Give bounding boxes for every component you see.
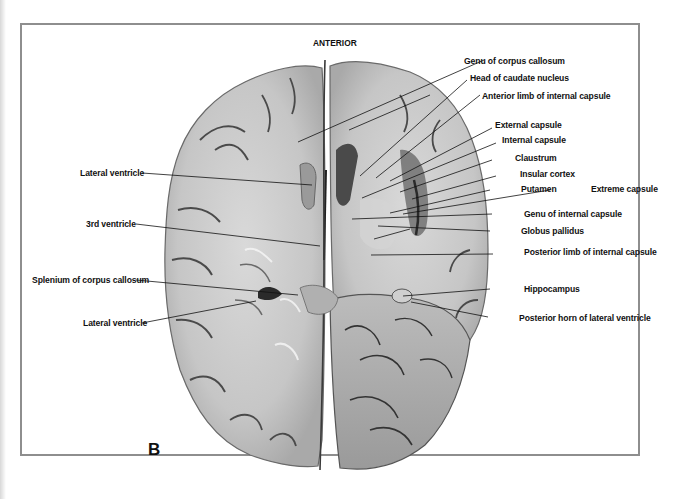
label-splenium-corpus-callosum: Splenium of corpus callosum (32, 275, 149, 285)
label-extreme-capsule: Extreme capsule (591, 184, 658, 194)
label-insular-cortex: Insular cortex (520, 169, 575, 179)
label-posterior-horn-lateral-ventricle: Posterior horn of lateral ventricle (519, 313, 651, 323)
label-lateral-ventricle-upper: Lateral ventricle (80, 168, 144, 178)
label-external-capsule: External capsule (495, 120, 562, 130)
label-third-ventricle: 3rd ventricle (86, 219, 136, 229)
label-genu-internal-capsule: Genu of internal capsule (524, 209, 622, 219)
cerebellum (330, 289, 470, 469)
label-genu-corpus-callosum: Genu of corpus callosum (464, 56, 565, 66)
label-internal-capsule: Internal capsule (502, 135, 566, 145)
label-lateral-ventricle-lower: Lateral ventricle (83, 318, 147, 328)
label-head-caudate-nucleus: Head of caudate nucleus (470, 73, 569, 83)
left-hemisphere (165, 66, 325, 467)
label-claustrum: Claustrum (515, 153, 557, 163)
label-posterior-limb-internal-capsule: Posterior limb of internal capsule (524, 247, 657, 257)
orientation-label: ANTERIOR (313, 38, 357, 48)
label-globus-pallidus: Globus pallidus (521, 226, 584, 236)
label-putamen: Putamen (521, 184, 557, 194)
label-hippocampus: Hippocampus (524, 284, 580, 294)
label-anterior-limb-internal-capsule: Anterior limb of internal capsule (482, 91, 611, 101)
panel-letter: B (148, 440, 160, 460)
